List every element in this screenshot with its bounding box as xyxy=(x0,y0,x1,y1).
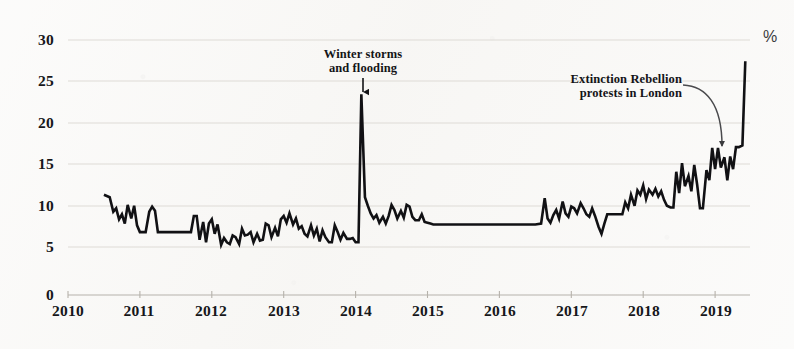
y-tick-label-15: 15 xyxy=(20,155,54,173)
x-tick-label-2017: 2017 xyxy=(541,302,603,320)
annotation-extinction-rebellion-line1: Extinction Rebellion xyxy=(530,72,682,86)
x-tick-label-2018: 2018 xyxy=(613,302,675,320)
x-tick-label-2016: 2016 xyxy=(469,302,531,320)
annotation-winter-storms-line2: and flooding xyxy=(290,61,436,75)
x-tick-label-2019: 2019 xyxy=(685,302,747,320)
y-tick-label-10: 10 xyxy=(20,197,54,215)
y-tick-label-30: 30 xyxy=(20,31,54,49)
unit-percent-label: % xyxy=(763,28,777,46)
annotation-winter-storms: Winter storms and flooding xyxy=(290,47,436,76)
x-tick-label-2015: 2015 xyxy=(397,302,459,320)
x-tick-label-2010: 2010 xyxy=(37,302,99,320)
x-tick-label-2011: 2011 xyxy=(108,302,170,320)
y-tick-label-20: 20 xyxy=(20,114,54,132)
x-tick-label-2014: 2014 xyxy=(325,302,387,320)
y-tick-label-25: 25 xyxy=(20,72,54,90)
x-tick-label-2013: 2013 xyxy=(253,302,315,320)
extinction-rebellion-arrow xyxy=(683,85,722,146)
x-tick-label-2012: 2012 xyxy=(180,302,242,320)
annotation-extinction-rebellion-line2: protests in London xyxy=(530,86,682,100)
annotation-extinction-rebellion: Extinction Rebellion protests in London xyxy=(530,72,682,101)
annotation-winter-storms-line1: Winter storms xyxy=(290,47,436,61)
chart-figure: 30 25 20 15 10 5 0 2010 2011 2012 2013 2… xyxy=(0,0,794,349)
y-tick-label-5: 5 xyxy=(20,238,54,256)
